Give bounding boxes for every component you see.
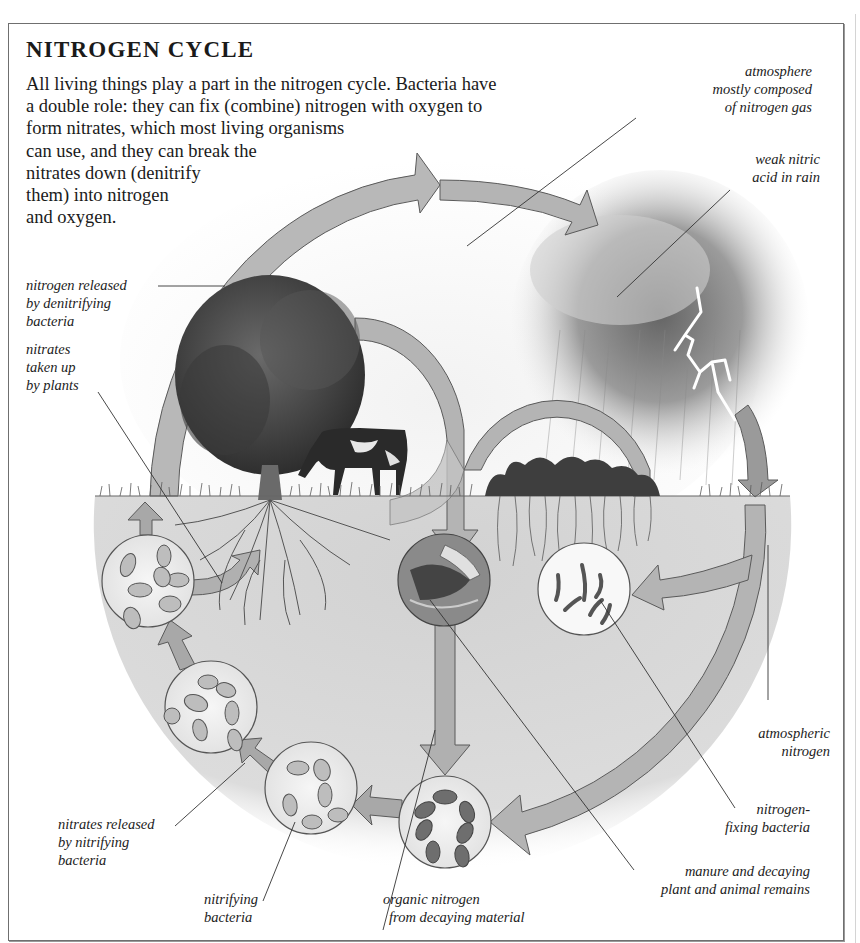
intro-line: nitrates down (denitrify [26, 162, 497, 184]
bacteria-circle-nitrifying [265, 742, 357, 834]
label-nitrogen-released: nitrogen released by denitrifying bacter… [26, 276, 127, 330]
intro-line: and oxygen. [26, 206, 497, 228]
intro-paragraph: All living things play a part in the nit… [26, 73, 497, 228]
label-weak-nitric-acid: weak nitric acid in rain [640, 150, 820, 186]
page-title: NITROGEN CYCLE [26, 37, 254, 63]
label-nitrifying-bacteria: nitrifying bacteria [204, 890, 258, 926]
label-nitrates-released: nitrates released by nitrifying bacteria [58, 815, 155, 869]
nitrogen-fixing-bacteria-circle [538, 543, 630, 635]
intro-line: them) into nitrogen [26, 184, 497, 206]
intro-line: form nitrates, which most living organis… [26, 117, 497, 139]
intro-line: All living things play a part in the nit… [26, 73, 497, 95]
label-nitrogen-fixing-bacteria: nitrogen- fixing bacteria [660, 800, 810, 836]
label-atmospheric-nitrogen: atmospheric nitrogen [690, 724, 830, 760]
decaying-matter-circle [398, 534, 490, 626]
label-manure: manure and decaying plant and animal rem… [560, 862, 810, 898]
bacteria-circle-organic-nitrogen [399, 776, 491, 868]
label-atmosphere: atmosphere mostly composed of nitrogen g… [612, 62, 812, 116]
label-nitrates-taken-up: nitrates taken up by plants [26, 340, 79, 394]
label-organic-nitrogen: organic nitrogen from decaying material [383, 890, 525, 926]
intro-line: a double role: they can fix (combine) ni… [26, 95, 497, 117]
bacteria-circle-nitrates-released [164, 661, 257, 753]
storm-cloud [510, 170, 810, 490]
intro-line: can use, and they can break the [26, 140, 497, 162]
